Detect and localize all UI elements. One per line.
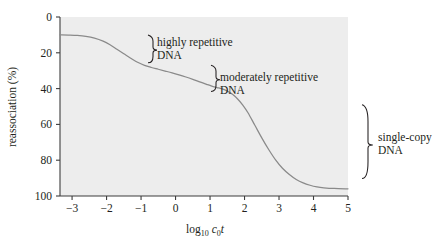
- single-copy-label-line1: single-copy: [378, 131, 432, 144]
- y-tick-label: 0: [46, 11, 52, 23]
- x-axis-ticks: [72, 196, 348, 200]
- x-axis-title-base: log: [186, 223, 201, 236]
- annotation-single-copy: single-copy DNA: [362, 105, 432, 179]
- chart-canvas: 020406080100 −3−2−1012345 reassociation …: [0, 0, 436, 244]
- reassociation-kinetics-figure: 020406080100 −3−2−1012345 reassociation …: [0, 0, 436, 244]
- moderately-repetitive-label-line1: moderately repetitive: [220, 71, 318, 84]
- y-tick-label: 20: [41, 47, 53, 59]
- x-axis-title-sub-10: 10: [201, 229, 209, 238]
- x-tick-label: 5: [345, 202, 351, 214]
- x-axis-title-var-t: t: [221, 223, 225, 235]
- x-axis-tick-labels: −3−2−1012345: [66, 202, 351, 214]
- y-tick-label: 80: [41, 154, 53, 166]
- x-tick-label: 0: [173, 202, 179, 214]
- y-axis-tick-labels: 020406080100: [35, 11, 53, 202]
- highly-repetitive-label-line2: DNA: [157, 49, 183, 61]
- moderately-repetitive-label-line2: DNA: [220, 84, 246, 96]
- x-tick-label: 3: [276, 202, 282, 214]
- x-tick-label: 1: [207, 202, 213, 214]
- y-tick-label: 40: [41, 83, 53, 95]
- y-axis-ticks: [56, 17, 60, 196]
- x-axis-title: log10 c0t: [186, 223, 225, 238]
- x-tick-label: 2: [242, 202, 248, 214]
- y-tick-label: 60: [41, 118, 53, 130]
- single-copy-brace: [362, 105, 373, 179]
- y-axis-title: reassociation (%): [6, 67, 19, 147]
- x-tick-label: −1: [135, 202, 147, 214]
- y-tick-label: 100: [35, 190, 53, 202]
- x-tick-label: −3: [66, 202, 78, 214]
- x-tick-label: 4: [311, 202, 317, 214]
- single-copy-label-line2: DNA: [378, 144, 404, 156]
- x-tick-label: −2: [100, 202, 112, 214]
- highly-repetitive-label-line1: highly repetitive: [157, 36, 233, 49]
